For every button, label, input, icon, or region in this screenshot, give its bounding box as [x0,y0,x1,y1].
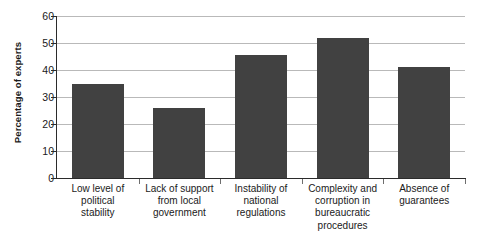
x-axis-category-label-line: Complexity and [304,183,382,195]
x-axis-category-label-line: national [222,195,300,207]
y-axis-tick-mark [51,16,56,17]
bar-chart: Percentage of experts 0102030405060 Low … [0,0,482,238]
bar [235,55,287,178]
x-axis-category-label-line: from local [141,195,219,207]
x-axis-category-label-line: Lack of support [141,183,219,195]
bars-layer [57,16,465,178]
x-axis-tick-mark [383,179,384,184]
x-axis-tick-mark [465,179,466,184]
bar [317,38,369,178]
y-axis-tick-mark [51,151,56,152]
x-axis-tick-mark [139,179,140,184]
x-axis-category-label-line: Absence of [385,183,463,195]
bar [398,67,450,178]
y-axis-tick-labels: 0102030405060 [26,0,54,185]
x-axis-category-label-line: political [59,195,137,207]
x-axis-category-label-line: guarantees [385,195,463,207]
x-axis-tick-mark [220,179,221,184]
y-axis-title-text: Percentage of experts [13,42,24,143]
x-axis-category-label: Lack of supportfrom localgovernment [141,183,219,220]
x-axis-line [56,178,466,179]
x-axis-category-label-line: corruption in [304,195,382,207]
x-axis-category-label-line: Instability of [222,183,300,195]
bar [72,84,124,179]
y-axis-tick-mark [51,178,56,179]
y-axis-title: Percentage of experts [8,0,28,185]
x-axis-category-label: Instability ofnationalregulations [222,183,300,220]
x-axis-tick-mark [302,179,303,184]
x-axis-category-label: Low level ofpoliticalstability [59,183,137,220]
bar [153,108,205,178]
x-axis-category-label-line: Low level of [59,183,137,195]
x-axis-category-label: Complexity andcorruption inbureaucraticp… [304,183,382,232]
x-axis-category-label-line: bureaucratic [304,207,382,219]
y-axis-tick-mark [51,43,56,44]
y-axis-tick-mark [51,70,56,71]
x-axis-category-label-line: stability [59,207,137,219]
x-axis-category-label-line: government [141,207,219,219]
y-axis-tick-mark [51,97,56,98]
x-axis-category-label-line: regulations [222,207,300,219]
x-axis-category-label-line: procedures [304,220,382,232]
x-axis-category-label: Absence ofguarantees [385,183,463,207]
x-axis-category-labels: Low level ofpoliticalstabilityLack of su… [57,181,465,238]
y-axis-tick-mark [51,124,56,125]
